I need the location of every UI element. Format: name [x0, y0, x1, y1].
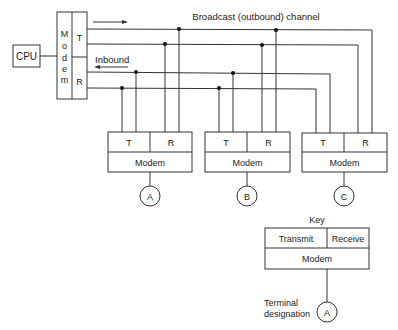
terminal-modem-label: Modem — [135, 158, 165, 168]
terminal-transmit-label: T — [223, 138, 229, 148]
terminal-b: T R Modem B — [205, 132, 290, 206]
central-modem: M o d e m T R — [57, 12, 87, 99]
inbound-line-2 — [87, 88, 316, 133]
central-transmit-label: T — [77, 33, 83, 43]
key-designation-label: Terminal — [264, 298, 298, 308]
terminal-designation: B — [244, 192, 250, 202]
terminal-receive-label: R — [362, 138, 369, 148]
inbound-line-1 — [87, 72, 330, 133]
terminal-receive-label: R — [168, 138, 175, 148]
junction-dot — [163, 42, 167, 46]
terminal-modem-label: Modem — [329, 158, 359, 168]
terminal-c: T R Modem C — [302, 133, 387, 206]
key-legend: Key Transmit Receive Modem A Terminal de… — [264, 215, 369, 322]
central-receive-label: R — [76, 77, 83, 87]
key-transmit-label: Transmit — [279, 234, 314, 244]
junction-dot — [134, 70, 138, 74]
central-modem-letter: o — [62, 41, 67, 51]
cpu-label: CPU — [16, 51, 37, 62]
terminal-transmit-label: T — [126, 138, 132, 148]
multipoint-modem-diagram: CPU M o d e m T R Broadcast (outbound) c… — [0, 0, 398, 330]
key-modem-label: Modem — [302, 254, 332, 264]
terminal-receive-label: R — [265, 138, 272, 148]
outbound-arrow-icon — [93, 20, 128, 24]
junction-dot — [217, 86, 221, 90]
key-designation: A — [324, 308, 330, 318]
terminal-a: T R Modem A — [108, 132, 192, 206]
terminal-designation: C — [341, 192, 348, 202]
junction-dot — [120, 86, 124, 90]
cpu-block: CPU — [13, 45, 40, 67]
terminal-designation: A — [147, 192, 153, 202]
key-title: Key — [309, 215, 325, 225]
terminal-modem-label: Modem — [232, 158, 262, 168]
central-modem-letter: d — [62, 53, 67, 63]
central-modem-letter: m — [61, 75, 69, 85]
junction-dot — [274, 28, 278, 32]
central-modem-letter: M — [61, 29, 69, 39]
key-receive-label: Receive — [332, 234, 365, 244]
junction-dot — [260, 43, 264, 47]
key-designation-label: designation — [264, 309, 310, 319]
junction-dot — [231, 71, 235, 75]
inbound-label: Inbound — [95, 54, 129, 65]
inbound-arrow-icon — [94, 65, 128, 69]
terminal-transmit-label: T — [320, 138, 326, 148]
broadcast-channel-label: Broadcast (outbound) channel — [192, 11, 319, 22]
junction-dot — [177, 27, 181, 31]
central-modem-letter: e — [62, 64, 67, 74]
